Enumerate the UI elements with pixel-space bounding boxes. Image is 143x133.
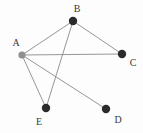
graph-edge-a-c <box>22 54 122 55</box>
node-label-d: D <box>114 115 121 125</box>
graph-node-c[interactable] <box>118 50 126 58</box>
graph-node-e[interactable] <box>42 104 50 112</box>
edges-layer <box>22 21 122 109</box>
graph-edge-b-e <box>46 21 73 108</box>
graph-node-b[interactable] <box>69 17 77 25</box>
node-label-b: B <box>74 4 81 14</box>
node-label-c: C <box>130 58 137 68</box>
graph-node-d[interactable] <box>102 105 110 113</box>
node-label-e: E <box>36 117 42 127</box>
graph-diagram-canvas: ABCDE <box>0 0 143 133</box>
nodes-layer <box>18 17 126 113</box>
node-label-a: A <box>12 38 19 48</box>
graph-edge-b-c <box>73 21 122 54</box>
graph-node-a[interactable] <box>18 51 25 58</box>
graph-edge-a-b <box>22 21 73 55</box>
graph-svg <box>0 0 143 133</box>
